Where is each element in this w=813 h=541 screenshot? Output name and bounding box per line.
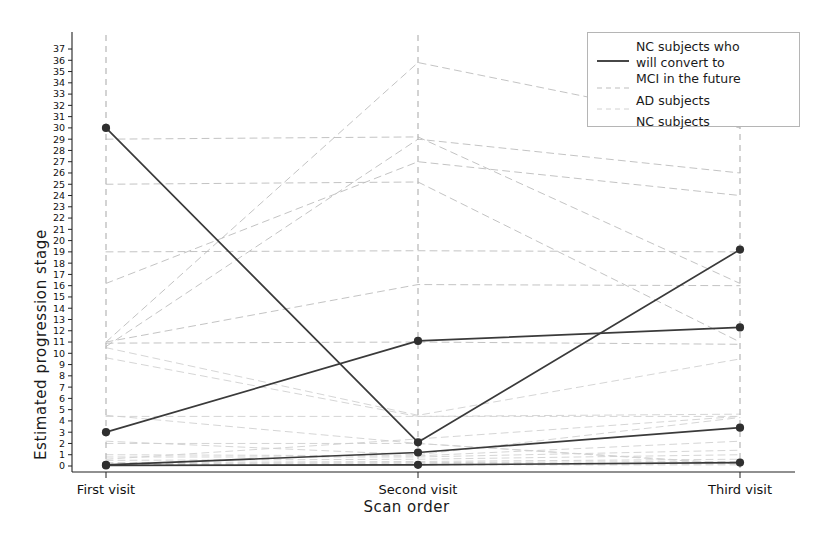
data-point-marker bbox=[736, 459, 744, 467]
x-axis-title: Scan order bbox=[0, 498, 813, 516]
series-line-ad-7 bbox=[106, 285, 740, 342]
y-tick-label: 25 bbox=[53, 179, 65, 190]
y-tick-label: 13 bbox=[53, 314, 65, 325]
y-tick-label: 8 bbox=[59, 370, 65, 381]
x-tick-label-1: First visit bbox=[77, 482, 135, 497]
y-tick-label: 35 bbox=[53, 66, 65, 77]
y-tick-label: 37 bbox=[53, 43, 65, 54]
y-tick-label: 1 bbox=[59, 449, 65, 460]
data-point-marker bbox=[414, 438, 422, 446]
y-tick-label: 23 bbox=[53, 201, 65, 212]
y-tick-label: 11 bbox=[53, 336, 65, 347]
data-point-marker bbox=[102, 124, 110, 132]
y-tick-group: 0123456789101112131415161718192021222324… bbox=[53, 43, 72, 471]
y-tick-label: 17 bbox=[53, 269, 65, 280]
y-tick-label: 9 bbox=[59, 359, 65, 370]
series-line-ad-2 bbox=[106, 182, 740, 342]
y-axis-title: Estimated progression stage bbox=[32, 229, 50, 460]
y-tick-label: 28 bbox=[53, 145, 65, 156]
data-point-marker bbox=[736, 323, 744, 331]
legend-label-converters-line2: will convert to bbox=[636, 55, 725, 70]
y-tick-label: 27 bbox=[53, 156, 65, 167]
y-tick-label: 33 bbox=[53, 88, 65, 99]
series-line-ad-1 bbox=[106, 137, 740, 284]
legend-label-ad: AD subjects bbox=[636, 93, 710, 108]
y-tick-label: 14 bbox=[53, 303, 65, 314]
y-tick-label: 30 bbox=[53, 122, 65, 133]
series-line-ad-8 bbox=[106, 342, 740, 344]
data-point-marker bbox=[736, 246, 744, 254]
y-tick-label: 7 bbox=[59, 382, 65, 393]
y-axis-title-wrap: Estimated progression stage bbox=[10, 60, 40, 460]
y-tick-label: 3 bbox=[59, 427, 65, 438]
y-tick-label: 10 bbox=[53, 348, 65, 359]
y-tick-label: 15 bbox=[53, 291, 65, 302]
series-line-nc-2 bbox=[106, 358, 740, 417]
x-tick-label-3: Third visit bbox=[707, 482, 772, 497]
y-tick-label: 5 bbox=[59, 404, 65, 415]
data-point-marker bbox=[102, 461, 110, 469]
y-tick-label: 2 bbox=[59, 438, 65, 449]
legend-label-nc: NC subjects bbox=[636, 114, 710, 129]
y-tick-label: 20 bbox=[53, 235, 65, 246]
y-tick-label: 24 bbox=[53, 190, 65, 201]
legend: NC subjects who will convert to MCI in t… bbox=[587, 32, 800, 127]
y-tick-label: 18 bbox=[53, 258, 65, 269]
y-tick-label: 12 bbox=[53, 325, 65, 336]
y-tick-label: 6 bbox=[59, 393, 65, 404]
y-tick-label: 0 bbox=[59, 460, 65, 471]
y-tick-label: 26 bbox=[53, 167, 65, 178]
data-point-marker bbox=[414, 448, 422, 456]
y-tick-label: 19 bbox=[53, 246, 65, 257]
data-point-marker bbox=[102, 428, 110, 436]
y-tick-label: 36 bbox=[53, 55, 65, 66]
data-point-marker bbox=[414, 337, 422, 345]
x-tick-group: First visitSecond visitThird visit bbox=[77, 472, 772, 497]
data-point-marker bbox=[736, 424, 744, 432]
chart-figure: 0123456789101112131415161718192021222324… bbox=[0, 0, 813, 541]
y-tick-label: 31 bbox=[53, 111, 65, 122]
x-tick-label-2: Second visit bbox=[379, 482, 458, 497]
y-tick-label: 16 bbox=[53, 280, 65, 291]
y-tick-label: 4 bbox=[59, 415, 65, 426]
data-point-marker bbox=[414, 461, 422, 469]
y-tick-label: 22 bbox=[53, 212, 65, 223]
y-tick-label: 32 bbox=[53, 100, 65, 111]
legend-label-converters-line3: MCI in the future bbox=[636, 71, 741, 86]
series-line-ad-6 bbox=[106, 139, 740, 346]
y-tick-label: 34 bbox=[53, 77, 65, 88]
legend-label-converters-line1: NC subjects who bbox=[636, 39, 740, 54]
y-tick-label: 21 bbox=[53, 224, 65, 235]
y-tick-label: 29 bbox=[53, 134, 65, 145]
series-line-ad-3 bbox=[106, 251, 740, 252]
